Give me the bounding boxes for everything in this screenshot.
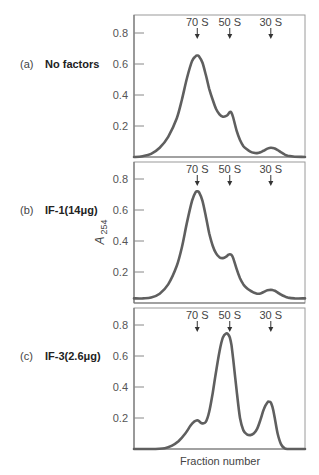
sedimentation-marker-label: 70 S <box>186 309 209 321</box>
y-tick-label: 0.2 <box>113 266 128 278</box>
panel-condition-label: IF-1(14μg) <box>45 204 98 216</box>
figure: 0.20.40.60.870 S50 S30 S(a)No factors0.2… <box>0 0 319 475</box>
panels-group: 0.20.40.60.870 S50 S30 S(a)No factors0.2… <box>20 15 305 449</box>
panel-letter-label: (a) <box>20 58 33 70</box>
sedimentation-marker-label: 70 S <box>186 163 209 175</box>
down-arrow-head-icon <box>227 181 232 186</box>
y-tick-label: 0.8 <box>113 173 128 185</box>
y-axis-title-sub: 254 <box>99 219 109 234</box>
panel-b: 0.20.40.60.870 S50 S30 S(b)IF-1(14μg) <box>20 162 305 303</box>
y-tick-label: 0.4 <box>113 89 128 101</box>
panel-letter-label: (b) <box>20 204 33 216</box>
y-tick-label: 0.2 <box>113 412 128 424</box>
down-arrow-head-icon <box>195 34 200 39</box>
y-tick-label: 0.8 <box>113 319 128 331</box>
absorbance-curve <box>134 191 305 298</box>
sedimentation-marker-label: 30 S <box>259 16 282 28</box>
absorbance-curve <box>134 55 305 157</box>
y-axis-title-main: A <box>93 237 107 246</box>
panel-condition-label: No factors <box>45 58 99 70</box>
y-tick-label: 0.6 <box>113 350 128 362</box>
down-arrow-head-icon <box>268 34 273 39</box>
plot-frame <box>134 308 305 449</box>
sedimentation-marker-label: 70 S <box>186 16 209 28</box>
x-axis-title: Fraction number <box>180 455 260 467</box>
down-arrow-head-icon <box>195 327 200 332</box>
down-arrow-head-icon <box>195 181 200 186</box>
down-arrow-head-icon <box>227 327 232 332</box>
sedimentation-marker-label: 30 S <box>259 309 282 321</box>
panel-c: 0.20.40.60.870 S50 S30 S(c)IF-3(2.6μg) <box>20 308 305 449</box>
down-arrow-head-icon <box>268 327 273 332</box>
panel-condition-label: IF-3(2.6μg) <box>45 350 101 362</box>
down-arrow-head-icon <box>227 34 232 39</box>
y-tick-label: 0.6 <box>113 58 128 70</box>
absorbance-curve <box>134 333 305 449</box>
sedimentation-marker-label: 50 S <box>218 163 241 175</box>
sedimentation-marker-label: 30 S <box>259 163 282 175</box>
panel-letter-label: (c) <box>20 350 33 362</box>
y-tick-label: 0.4 <box>113 235 128 247</box>
y-tick-label: 0.6 <box>113 204 128 216</box>
y-tick-label: 0.2 <box>113 120 128 132</box>
plot-frame <box>134 15 305 157</box>
down-arrow-head-icon <box>268 181 273 186</box>
plot-frame <box>134 162 305 303</box>
svg-text:A254: A254 <box>93 219 109 245</box>
y-tick-label: 0.8 <box>113 27 128 39</box>
sedimentation-marker-label: 50 S <box>218 309 241 321</box>
panel-a: 0.20.40.60.870 S50 S30 S(a)No factors <box>20 15 305 157</box>
y-tick-label: 0.4 <box>113 381 128 393</box>
sedimentation-marker-label: 50 S <box>218 16 241 28</box>
y-axis-title: A254 <box>93 219 109 245</box>
